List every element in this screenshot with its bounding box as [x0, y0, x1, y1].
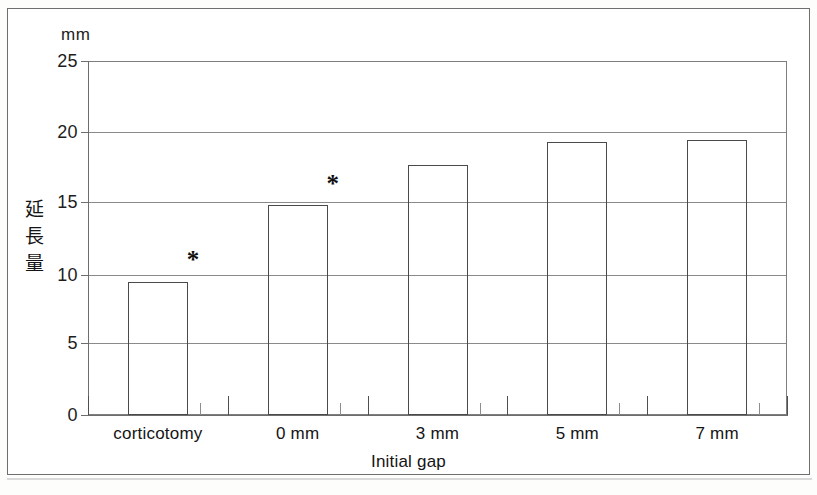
y-tick-label-0: 0 [32, 406, 78, 424]
x-tick-major [647, 396, 648, 415]
x-tick-minor [340, 403, 341, 415]
x-axis-line [88, 415, 788, 416]
y-tick-label-10: 10 [32, 266, 78, 284]
y-tick-15 [81, 202, 88, 203]
x-tick-label-5-mm: 5 mm [556, 424, 599, 444]
x-tick-major [88, 396, 89, 415]
significance-asterisk: * [187, 247, 200, 272]
y-tick-label-5: 5 [32, 334, 78, 352]
y-tick-label-20: 20 [32, 123, 78, 141]
scan-shadow [7, 478, 812, 480]
x-tick-major [787, 396, 788, 415]
bar-7-mm [687, 140, 747, 415]
x-tick-label-7-mm: 7 mm [695, 424, 738, 444]
y-axis-tick-labels: 25 20 15 10 5 0 [28, 0, 78, 495]
y-tick-10 [81, 275, 88, 276]
significance-asterisk: * [326, 171, 339, 196]
bar-corticotomy [128, 282, 188, 415]
bar-5-mm [547, 142, 607, 415]
x-tick-minor [480, 403, 481, 415]
y-tick-20 [81, 132, 88, 133]
x-tick-minor [619, 403, 620, 415]
x-tick-major [507, 396, 508, 415]
x-tick-label-corticotomy: corticotomy [113, 424, 202, 444]
bar-3-mm [408, 165, 468, 415]
y-tick-0 [81, 415, 88, 416]
x-tick-minor [200, 403, 201, 415]
x-axis-title: Initial gap [0, 452, 817, 472]
x-tick-minor [759, 403, 760, 415]
gridline-20 [89, 132, 786, 133]
x-tick-label-0-mm: 0 mm [276, 424, 319, 444]
y-axis-line [88, 61, 89, 416]
x-tick-label-3-mm: 3 mm [416, 424, 459, 444]
x-tick-major [228, 396, 229, 415]
x-tick-major [368, 396, 369, 415]
bar-0-mm [268, 205, 328, 415]
y-tick-25 [81, 61, 88, 62]
y-tick-label-25: 25 [32, 52, 78, 70]
figure-bar-chart: mm 延 長 量 25 20 15 10 5 0 ** corticotomy0… [0, 0, 817, 495]
y-tick-label-15: 15 [32, 193, 78, 211]
y-tick-5 [81, 343, 88, 344]
